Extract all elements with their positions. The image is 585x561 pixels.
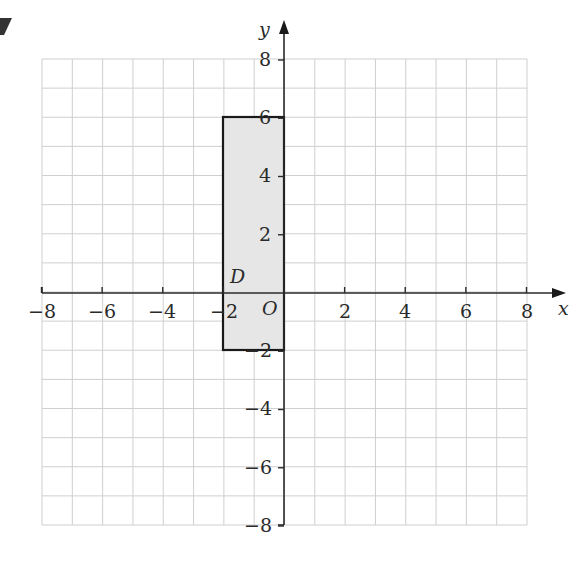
y-axis-arrow-icon — [279, 20, 289, 34]
x-axis-label: x — [558, 297, 569, 319]
y-tick-label: −8 — [244, 514, 272, 536]
x-tick-label: −4 — [148, 300, 176, 322]
y-axis-label: y — [258, 18, 270, 40]
y-tick-label: −4 — [244, 397, 272, 419]
y-tick-label: −6 — [244, 456, 272, 478]
x-tick-label: 8 — [521, 300, 533, 322]
origin-label: O — [262, 297, 278, 319]
y-tick-label: 6 — [259, 106, 271, 128]
y-tick-label: 2 — [259, 223, 271, 245]
x-tick-label: −2 — [210, 300, 238, 322]
x-tick-label: 2 — [339, 300, 351, 322]
y-tick-label: 8 — [259, 48, 271, 70]
y-tick-label: −2 — [244, 339, 272, 361]
coordinate-grid-figure: x y O D −8 −6 −4 −2 2 4 6 8 8 6 4 2 −2 −… — [0, 0, 585, 561]
y-tick-label: 4 — [259, 164, 271, 186]
shape-label-D: D — [229, 265, 245, 287]
x-tick-label: 6 — [460, 300, 472, 322]
x-tick-label: −8 — [28, 300, 56, 322]
question-marker — [0, 18, 12, 35]
x-tick-label: −6 — [88, 300, 116, 322]
x-tick-label: 4 — [399, 300, 411, 322]
